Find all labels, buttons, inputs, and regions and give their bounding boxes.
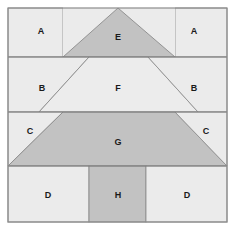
label-e: E [115, 32, 121, 42]
composite-shape-diagram: A E A B F B C G C D H D [0, 0, 237, 234]
label-b-left: B [39, 83, 46, 93]
label-a-right: A [191, 26, 198, 36]
region-a-right [175, 8, 227, 57]
label-a-left: A [38, 26, 45, 36]
label-d-left: D [45, 190, 52, 200]
label-h: H [115, 190, 122, 200]
region-a-left [8, 8, 63, 57]
label-d-right: D [184, 190, 191, 200]
label-c-left: C [27, 126, 34, 136]
figure-root: A E A B F B C G C D H D [0, 0, 237, 234]
label-b-right: B [191, 83, 198, 93]
label-f: F [115, 83, 121, 93]
label-g: G [114, 137, 121, 147]
label-c-right: C [203, 126, 210, 136]
